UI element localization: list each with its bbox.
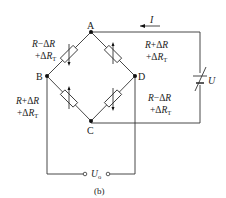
resistor-label-dc: R−ΔR +ΔRT (147, 93, 171, 116)
resistor-label-ad: R+ΔR +ΔRT (144, 40, 168, 63)
svg-text:R+ΔR: R+ΔR (144, 40, 168, 50)
node-d (133, 74, 137, 78)
resistor-label-bc: R+ΔR +ΔRT (15, 96, 39, 119)
svg-text:R−ΔR: R−ΔR (31, 39, 55, 49)
resistor-ab (60, 44, 77, 66)
figure-caption: (b) (94, 186, 105, 196)
resistor-bc (60, 86, 77, 109)
node-label-d: D (138, 71, 145, 82)
resistor-ad (104, 42, 121, 64)
svg-text:+ΔRT: +ΔRT (146, 52, 167, 63)
node-label-b: B (36, 71, 43, 82)
resistor-dc (104, 88, 121, 111)
resistor-label-ab: R−ΔR +ΔRT (31, 39, 56, 62)
svg-text:R+ΔR: R+ΔR (15, 96, 39, 106)
svg-text:R−ΔR: R−ΔR (147, 93, 171, 103)
node-c (89, 119, 93, 123)
output-terminal-left (83, 172, 87, 176)
bridge-circuit-diagram: A B D C R−ΔR +ΔRT R+ΔR +ΔRT R+ΔR +ΔRT R−… (0, 0, 226, 198)
output-terminal-right (106, 172, 110, 176)
svg-text:+ΔRT: +ΔRT (35, 51, 56, 62)
node-label-a: A (87, 20, 95, 31)
output-voltage-label: Uo (91, 169, 101, 180)
node-label-c: C (87, 125, 94, 136)
svg-text:+ΔRT: +ΔRT (17, 108, 38, 119)
voltage-label: U (208, 75, 216, 86)
bridge-arms (47, 32, 135, 121)
svg-text:+ΔRT: +ΔRT (150, 105, 171, 116)
current-label: I (149, 14, 154, 25)
node-b (45, 74, 49, 78)
